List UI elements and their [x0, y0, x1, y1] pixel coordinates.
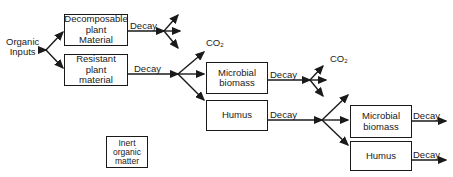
- humus-box-2: Humus: [350, 141, 412, 171]
- decay-label-5: Decay: [413, 111, 440, 121]
- decay-label-4: Decay: [270, 110, 297, 120]
- humus-box: Humus: [206, 100, 268, 131]
- decomposable-plant-material-box: Decomposable plant Material: [64, 14, 128, 46]
- co2-label-2: CO2: [330, 54, 348, 66]
- decay-label-6: Decay: [413, 150, 440, 160]
- co2-label-1: CO2: [206, 38, 224, 50]
- soil-organic-matter-diagram: Organic Inputs Decomposable plant Materi…: [0, 0, 453, 177]
- decay-label-2: Decay: [134, 64, 161, 74]
- resistant-plant-material-box: Resistant plant material: [64, 54, 128, 86]
- decay-label-3: Decay: [270, 70, 297, 80]
- decay-label-1: Decay: [130, 21, 157, 31]
- inert-organic-matter-box: Inert organic matter: [106, 136, 148, 168]
- microbial-biomass-box: Microbial biomass: [206, 62, 268, 94]
- microbial-biomass-box-2: Microbial biomass: [350, 105, 412, 138]
- organic-inputs-label: Organic Inputs: [6, 37, 39, 57]
